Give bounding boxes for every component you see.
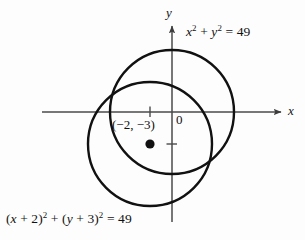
- equation-shifted-equals: =: [103, 211, 118, 226]
- equation-shifted-x-term: + 2): [17, 211, 43, 226]
- equation-circle-origin: x2 + y2 = 49: [186, 25, 250, 39]
- axes-group: [42, 26, 281, 222]
- circle-graph-figure: x2 + y2 = 49 (x + 2)2 + (y + 3)2 = 49 y …: [0, 0, 305, 240]
- equation-origin-plus: +: [197, 24, 212, 39]
- equation-shifted-y-term: + 3): [73, 211, 99, 226]
- origin-label: 0: [176, 113, 183, 126]
- equation-shifted-value: 49: [118, 211, 132, 226]
- equation-origin-value: 49: [237, 24, 251, 39]
- x-axis-label: x: [288, 104, 294, 117]
- y-axis-label: y: [166, 6, 172, 19]
- center-point-marker: [145, 139, 154, 148]
- equation-shifted-plus: +: [47, 211, 62, 226]
- circles-group: [88, 50, 234, 206]
- center-point-label: (−2, −3): [112, 118, 155, 131]
- equation-origin-equals: =: [222, 24, 237, 39]
- equation-circle-shifted: (x + 2)2 + (y + 3)2 = 49: [6, 212, 132, 226]
